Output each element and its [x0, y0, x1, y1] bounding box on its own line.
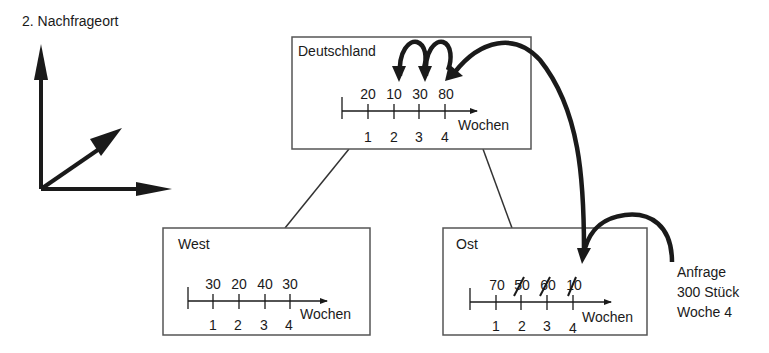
axis-unit-label: Wochen [300, 306, 351, 322]
value-week-3: 30 [412, 86, 428, 102]
week-label-1: 1 [364, 129, 372, 145]
title: 2. Nachfrageort [22, 13, 119, 29]
week-label-3: 3 [415, 129, 423, 145]
value-week-2: 10 [386, 86, 402, 102]
value-week-4: 30 [282, 276, 298, 292]
week-label-4: 4 [285, 317, 293, 333]
region-name: Ost [456, 236, 478, 252]
week-label-1: 1 [492, 318, 500, 334]
region-box-ost: Ost 70 50 60 10 1 2 3 4 Wochen [443, 228, 647, 336]
request-line-1: Anfrage [677, 264, 726, 280]
dimensions-axes-icon [34, 44, 172, 196]
request-line-3: Woche 4 [677, 304, 732, 320]
week-label-1: 1 [209, 317, 217, 333]
connector-west [285, 149, 349, 228]
week-label-3: 3 [260, 317, 268, 333]
region-box-west: West 30 20 40 30 1 2 3 4 Wochen [163, 228, 370, 335]
week-label-3: 3 [543, 318, 551, 334]
value-week-4: 80 [438, 86, 454, 102]
week-label-2: 2 [234, 317, 242, 333]
axis-unit-label: Wochen [458, 117, 509, 133]
week-label-4: 4 [569, 320, 577, 336]
region-name: West [178, 236, 210, 252]
value-week-1: 70 [489, 277, 505, 293]
value-week-2: 20 [231, 276, 247, 292]
week-label-4: 4 [441, 129, 449, 145]
diagram-canvas: 2. Nachfrageort Deutschland 20 10 30 80 … [0, 0, 769, 353]
request-line-2: 300 Stück [677, 284, 740, 300]
connector-ost [483, 149, 512, 228]
value-week-1: 20 [360, 86, 376, 102]
week-label-2: 2 [390, 129, 398, 145]
axis-unit-label: Wochen [582, 309, 633, 325]
region-box-deutschland: Deutschland 20 10 30 80 1 2 3 4 Wochen [292, 37, 531, 149]
week-label-2: 2 [518, 318, 526, 334]
request-label: Anfrage 300 Stück Woche 4 [677, 264, 740, 320]
value-week-1: 30 [205, 276, 221, 292]
value-week-3: 40 [257, 276, 273, 292]
region-name: Deutschland [298, 43, 376, 59]
